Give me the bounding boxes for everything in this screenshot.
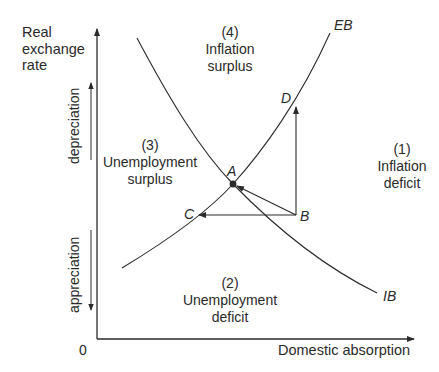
y-axis-label: Real exchange rate xyxy=(22,24,85,74)
point-d-label: D xyxy=(281,90,291,107)
x-axis-label: Domestic absorption xyxy=(278,342,410,359)
region-3-line2: surplus xyxy=(90,171,210,188)
point-b-label: B xyxy=(300,208,309,225)
y-axis-label-line3: rate xyxy=(22,57,85,74)
region-3-number: (3) xyxy=(90,137,210,154)
origin-label: 0 xyxy=(79,342,87,359)
y-axis-label-line1: Real xyxy=(22,24,85,41)
region-4-label: (4) Inflation surplus xyxy=(180,24,280,75)
region-4-line2: surplus xyxy=(180,58,280,75)
y-axis-label-line2: exchange xyxy=(22,41,85,58)
region-2-number: (2) xyxy=(170,275,290,292)
region-3-line1: Unemployment xyxy=(90,154,210,171)
region-1-number: (1) xyxy=(367,141,437,158)
region-3-label: (3) Unemployment surplus xyxy=(90,137,210,188)
region-1-label: (1) Inflation deficit xyxy=(367,141,437,192)
arrow-b-to-a xyxy=(237,186,296,215)
depreciation-label: depreciation xyxy=(66,88,82,164)
appreciation-label: appreciation xyxy=(66,237,82,313)
region-2-line1: Unemployment xyxy=(170,292,290,309)
region-2-line2: deficit xyxy=(170,309,290,326)
region-1-line1: Inflation xyxy=(367,158,437,175)
equilibrium-point-a xyxy=(230,181,237,188)
region-4-number: (4) xyxy=(180,24,280,41)
region-2-label: (2) Unemployment deficit xyxy=(170,275,290,326)
point-c-label: C xyxy=(184,206,194,223)
ib-curve-label: IB xyxy=(383,288,396,305)
point-a-label: A xyxy=(227,163,236,180)
region-4-line1: Inflation xyxy=(180,41,280,58)
region-1-line2: deficit xyxy=(367,175,437,192)
eb-curve-label: EB xyxy=(334,17,353,34)
